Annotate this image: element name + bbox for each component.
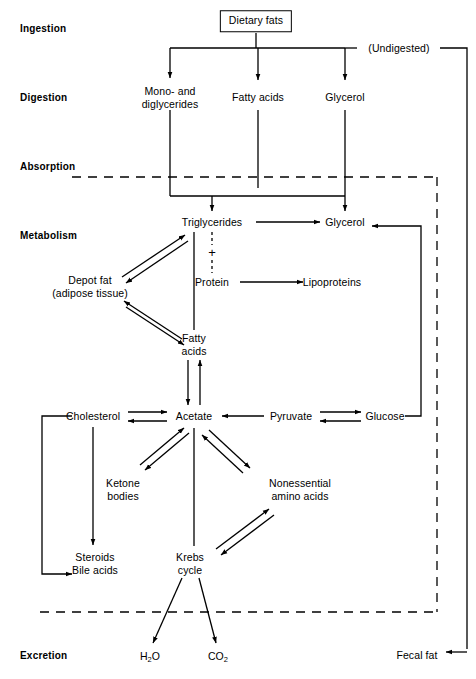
node-triglycerides[interactable]: Triglycerides	[182, 216, 242, 229]
node-dietary-fats[interactable]: Dietary fats	[220, 10, 292, 32]
node-water[interactable]: H2O	[140, 650, 160, 665]
stage-label-excretion: Excretion	[20, 650, 67, 661]
node-undigested: (Undigested)	[368, 42, 429, 55]
arrow-cholesterol-bracket-steroids	[42, 416, 72, 574]
node-acetate[interactable]: Acetate	[176, 410, 212, 423]
node-protein[interactable]: Protein	[195, 276, 229, 289]
node-fatty-acids-digestion[interactable]: Fatty acids	[232, 91, 284, 104]
node-depot-fat[interactable]: Depot fat (adipose tissue)	[52, 274, 128, 299]
node-steroids-bile-acids[interactable]: Steroids Bile acids	[72, 551, 118, 576]
arrow-krebs-to-water	[153, 578, 182, 643]
arrow-glucose-to-glycerol	[372, 226, 421, 416]
stage-label-absorption: Absorption	[20, 161, 75, 172]
arrow-depotfat-to-fattyacids	[126, 307, 184, 345]
node-mono-diglycerides[interactable]: Mono- and diglycerides	[142, 85, 199, 110]
node-fatty-acids-metabolism[interactable]: Fatty acids	[181, 332, 206, 357]
node-ketone-bodies[interactable]: Ketone bodies	[106, 477, 140, 502]
node-glucose[interactable]: Glucose	[365, 410, 404, 423]
stage-label-metabolism: Metabolism	[20, 230, 77, 241]
node-cholesterol[interactable]: Cholesterol	[66, 410, 120, 423]
stage-label-digestion: Digestion	[20, 92, 67, 103]
node-fecal-fat[interactable]: Fecal fat	[396, 649, 437, 662]
stage-label-ingestion: Ingestion	[20, 23, 66, 34]
node-pyruvate[interactable]: Pyruvate	[270, 410, 312, 423]
arrow-nonessential-to-krebs	[221, 515, 274, 555]
arrow-acetate-to-nonessential	[209, 430, 250, 468]
arrow-nonessential-to-acetate	[202, 435, 243, 473]
flowchart-canvas: Ingestion Digestion Absorption Metabolis…	[0, 0, 476, 679]
plus-sign: +	[208, 246, 216, 259]
node-nonessential-amino-acids[interactable]: Nonessential amino acids	[269, 477, 331, 502]
arrow-acetate-to-ketonebodies	[145, 433, 189, 470]
node-glycerol-metabolism[interactable]: Glycerol	[325, 216, 364, 229]
arrow-krebs-to-nonessential	[216, 509, 269, 549]
arrow-depotfat-to-triglycerides	[122, 235, 185, 277]
node-glycerol-digestion[interactable]: Glycerol	[325, 91, 364, 104]
node-lipoproteins[interactable]: Lipoproteins	[303, 276, 361, 289]
arrow-fattyacids-to-depotfat	[124, 301, 182, 339]
arrow-krebs-to-co2	[199, 578, 216, 643]
wire-undigested-rightrail	[440, 48, 467, 649]
node-carbon-dioxide[interactable]: CO2	[208, 650, 228, 665]
arrow-triglycerides-to-depotfat	[126, 241, 188, 283]
node-krebs-cycle[interactable]: Krebs cycle	[176, 551, 204, 576]
arrow-ketonebodies-to-acetate	[140, 428, 184, 465]
